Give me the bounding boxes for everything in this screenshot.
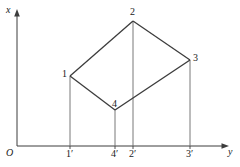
- vertex-label-3: 3: [193, 53, 198, 63]
- edge-1-2: [70, 21, 133, 76]
- coordinate-figure: x y O 1 2 3 4 1′ 4′ 2′ 3′: [0, 0, 240, 167]
- vertex-label-4: 4: [112, 99, 117, 109]
- edge-4-1: [70, 76, 115, 110]
- x-axis: [14, 9, 20, 146]
- edge-2-3: [133, 21, 190, 60]
- parallelogram: [70, 21, 190, 110]
- projection-label-4-prime: 4′: [111, 149, 118, 159]
- projection-label-2-prime: 2′: [129, 149, 136, 159]
- projection-label-3-prime: 3′: [186, 149, 193, 159]
- x-axis-arrowhead-icon: [14, 9, 20, 17]
- projection-label-1-prime: 1′: [66, 149, 73, 159]
- edge-3-4: [115, 60, 190, 110]
- y-axis-label: y: [228, 147, 232, 157]
- projection-lines: [70, 21, 190, 146]
- y-axis: [17, 143, 229, 149]
- x-axis-label: x: [6, 5, 10, 15]
- origin-label: O: [6, 148, 13, 158]
- figure-drawing: [0, 0, 240, 167]
- vertex-label-1: 1: [62, 69, 67, 79]
- vertex-label-2: 2: [130, 7, 135, 17]
